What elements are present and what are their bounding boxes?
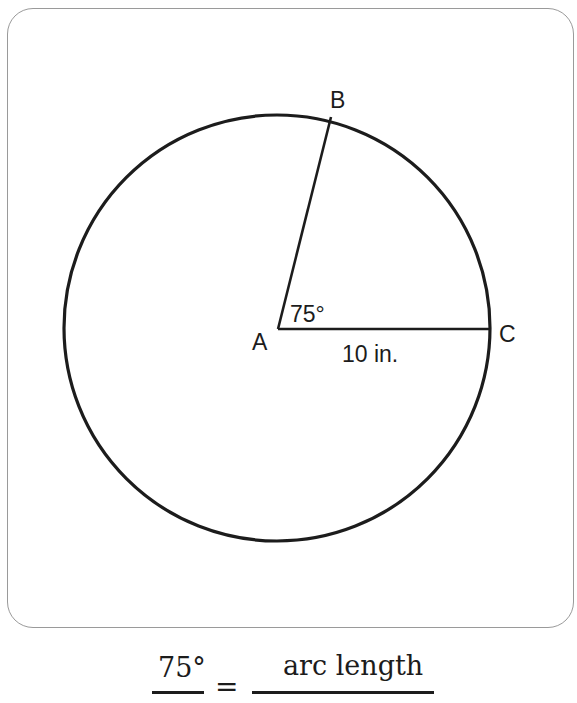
point-b-label: B bbox=[330, 87, 345, 113]
right-fraction-bar bbox=[252, 691, 434, 694]
left-numerator: 75° bbox=[158, 654, 206, 681]
point-a-label: A bbox=[252, 329, 268, 355]
radius-length-label: 10 in. bbox=[342, 341, 398, 367]
point-c-label: C bbox=[499, 321, 516, 347]
arc-length-proportion: 75° = arc length bbox=[0, 640, 577, 703]
left-fraction-bar bbox=[152, 691, 204, 694]
equals-sign: = bbox=[215, 673, 238, 701]
circle-diagram: B A C 75° 10 in. bbox=[0, 0, 577, 640]
angle-label: 75° bbox=[290, 301, 325, 327]
right-numerator: arc length bbox=[283, 652, 423, 679]
radius-ab bbox=[278, 117, 331, 329]
